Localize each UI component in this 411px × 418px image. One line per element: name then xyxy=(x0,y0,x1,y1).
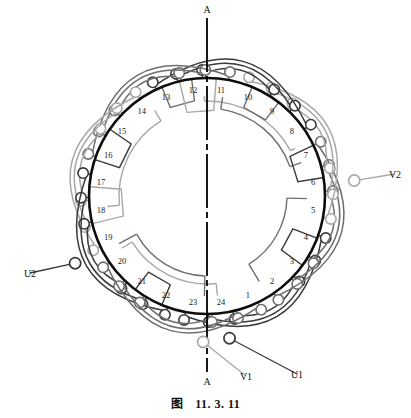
slot-number-23: 23 xyxy=(189,297,198,307)
coil-terminal-g7-3a xyxy=(78,168,88,178)
slot-number-10: 10 xyxy=(244,92,253,102)
slot-number-20: 20 xyxy=(118,256,127,266)
caption-prefix: 图 xyxy=(171,397,184,411)
slot-number-13: 13 xyxy=(162,92,171,102)
terminal-circle-V1[interactable] xyxy=(198,336,209,347)
winding-diagram-svg: 123456789101112131415161718192021222324A… xyxy=(0,0,411,418)
slot-number-17: 17 xyxy=(97,177,106,187)
figure-container: 123456789101112131415161718192021222324A… xyxy=(0,0,411,418)
slot-number-15: 15 xyxy=(118,126,127,136)
axis-label-bottom: A xyxy=(203,376,211,387)
coil-terminal-g8-3a xyxy=(98,262,108,272)
slot-number-9: 9 xyxy=(270,106,274,116)
inner-arc-4-end-a xyxy=(122,242,132,248)
inner-arc-2-end-b xyxy=(221,97,223,109)
slot-number-3: 3 xyxy=(290,256,294,266)
inner-arc-5-end-b xyxy=(287,198,307,199)
coil-terminal-g3-3a xyxy=(326,214,336,224)
slot-number-16: 16 xyxy=(104,150,113,160)
inner-arc-1-end-a xyxy=(290,148,294,150)
terminal-label-U2: U2 xyxy=(24,268,36,279)
inner-arc-6-end-a xyxy=(119,234,137,244)
slot-number-7: 7 xyxy=(304,150,308,160)
inner-arc-3-end-a xyxy=(155,111,161,121)
terminal-circle-U2[interactable] xyxy=(70,258,81,269)
inner-arc-6 xyxy=(137,234,205,276)
axis-label-top: A xyxy=(203,4,211,15)
coil-terminal-g2-3a xyxy=(273,295,283,305)
inner-arc-4-end-b xyxy=(216,284,217,296)
terminal-circle-V2[interactable] xyxy=(349,175,360,186)
figure-caption: 图11. 3. 11 xyxy=(0,394,411,412)
coil-terminal-g6-3a xyxy=(130,87,140,97)
slot-number-8: 8 xyxy=(290,126,294,136)
slot-number-11: 11 xyxy=(217,85,225,95)
slot-number-group: 123456789101112131415161718192021222324 xyxy=(97,85,316,307)
slot-number-18: 18 xyxy=(97,205,106,215)
slot-number-21: 21 xyxy=(138,276,147,286)
slot-number-19: 19 xyxy=(104,232,113,242)
slot-number-14: 14 xyxy=(138,106,147,116)
inner-arc-6-end-b xyxy=(204,276,205,296)
slot-number-22: 22 xyxy=(162,290,171,300)
slot-number-5: 5 xyxy=(311,205,315,215)
slot-number-2: 2 xyxy=(270,276,274,286)
inner-arc-5-end-a xyxy=(249,264,259,281)
coil-terminal-g4-3a xyxy=(306,119,316,129)
slot-number-24: 24 xyxy=(217,297,226,307)
coil-side-box-8 xyxy=(180,79,216,112)
slot-number-4: 4 xyxy=(304,232,309,242)
slot-number-6: 6 xyxy=(311,177,315,187)
terminal-leader-U1 xyxy=(230,338,297,374)
slot-number-1: 1 xyxy=(246,290,250,300)
coil-terminal-g8-3b xyxy=(256,305,266,315)
caption-number: 11. 3. 11 xyxy=(195,397,240,411)
inner-arc-5 xyxy=(249,198,287,264)
terminal-circle-U1[interactable] xyxy=(224,333,235,344)
inner-arc-3-end-b xyxy=(108,205,120,206)
terminal-label-U1: U1 xyxy=(291,369,303,380)
terminal-leader-U2 xyxy=(30,263,75,273)
terminal-label-V2: V2 xyxy=(389,169,401,180)
terminal-label-V1: V1 xyxy=(240,371,252,382)
slot-number-12: 12 xyxy=(189,85,198,95)
coil-terminal-g5-3a xyxy=(225,67,235,77)
inner-arc-2 xyxy=(221,109,290,167)
